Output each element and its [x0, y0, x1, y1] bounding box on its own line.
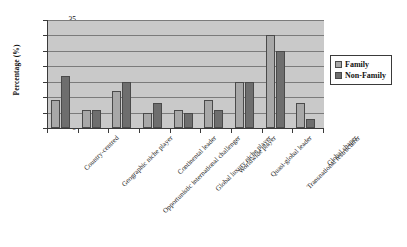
bar-family — [266, 35, 275, 128]
bar-non-family — [122, 82, 131, 128]
bar-group — [48, 20, 79, 128]
non-family-swatch-icon — [335, 72, 342, 79]
bar-non-family — [276, 51, 285, 128]
bar-family — [143, 113, 152, 128]
bar-chart: Percentage (%) 35302520151050 Country-ce… — [0, 0, 407, 247]
x-axis-label-2: Geographic niche player — [120, 134, 174, 188]
bar-group — [140, 20, 171, 128]
bar-family — [82, 110, 91, 129]
x-tick-mark — [231, 129, 232, 133]
bar-family — [204, 100, 213, 128]
x-axis-label-1: Country-centred — [83, 134, 121, 172]
bar-non-family — [153, 103, 162, 128]
bar-non-family — [92, 110, 101, 129]
bar-group — [201, 20, 232, 128]
family-swatch-icon — [335, 61, 342, 68]
bar-group — [171, 20, 202, 128]
x-tick-mark — [47, 129, 48, 133]
bar-family — [112, 91, 121, 128]
legend-label: Non-Family — [345, 71, 386, 80]
bar-non-family — [184, 113, 193, 128]
x-tick-mark — [262, 129, 263, 133]
bar-family — [296, 103, 305, 128]
bar-non-family — [306, 119, 315, 128]
bar-non-family — [245, 82, 254, 128]
y-axis-title: Percentage (%) — [12, 18, 26, 122]
x-tick-mark — [323, 129, 324, 133]
plot-area — [47, 20, 324, 129]
bar-group — [293, 20, 324, 128]
legend-label: Family — [345, 60, 369, 69]
legend-item-family[interactable]: Family — [335, 59, 386, 70]
x-axis-label-9: Global shaper — [326, 134, 359, 167]
x-tick-mark — [200, 129, 201, 133]
bar-non-family — [61, 76, 70, 128]
bar-group — [109, 20, 140, 128]
bar-family — [51, 100, 60, 128]
x-tick-mark — [139, 129, 140, 133]
x-tick-mark — [292, 129, 293, 133]
bar-family — [235, 82, 244, 128]
bar-group — [263, 20, 294, 128]
bar-group — [232, 20, 263, 128]
bar-non-family — [214, 110, 223, 129]
x-tick-mark — [108, 129, 109, 133]
x-tick-mark — [170, 129, 171, 133]
chart-legend: FamilyNon-Family — [330, 55, 392, 85]
x-tick-mark — [78, 129, 79, 133]
bar-group — [79, 20, 110, 128]
bar-family — [174, 110, 183, 129]
legend-item-non-family[interactable]: Non-Family — [335, 70, 386, 81]
